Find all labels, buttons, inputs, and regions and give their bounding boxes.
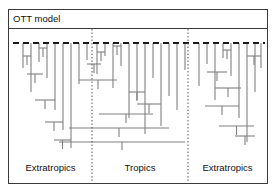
zone-label-extratropics-right: Extratropics [188, 163, 267, 173]
figure-title-box: OTT model [8, 9, 268, 29]
tree-branches [23, 43, 261, 150]
zone-label-tropics: Tropics [92, 163, 188, 173]
zone-label-extratropics-left: Extratropics [9, 163, 92, 173]
page-title: OTT model [9, 14, 60, 24]
zone-label-row: Extratropics Tropics Extratropics [9, 152, 267, 183]
figure-panel: OTT model Extratropics Tropics Extratrop… [0, 0, 278, 192]
phylogenetic-tree-diagram [9, 30, 267, 152]
